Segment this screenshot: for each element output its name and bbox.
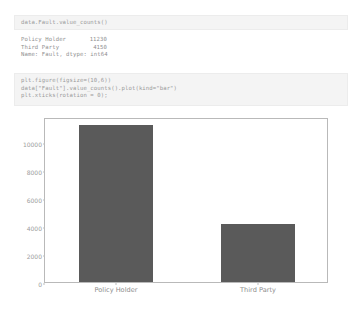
x-axis-tick-mark bbox=[116, 282, 117, 285]
y-axis-tick-label: 10000 bbox=[23, 141, 45, 148]
plot-axes-frame: 0200040006000800010000Policy HolderThird… bbox=[44, 118, 328, 283]
output-row-value: 11230 bbox=[75, 36, 107, 44]
code-cell-input-2[interactable]: plt.figure(figsize=(10,6)) data["Fault"]… bbox=[14, 73, 348, 106]
y-axis-tick-label: 0 bbox=[38, 281, 45, 288]
bar bbox=[79, 125, 153, 282]
code-line: data.Fault.value_counts() bbox=[21, 19, 342, 27]
code-line: plt.figure(figsize=(10,6)) bbox=[21, 77, 342, 85]
cell-output-text: Policy Holder11230 Third Party4150 Name:… bbox=[21, 36, 341, 59]
y-axis-tick-label: 8000 bbox=[27, 169, 45, 176]
x-axis-tick-label: Third Party bbox=[240, 286, 276, 294]
y-axis-tick-label: 2000 bbox=[27, 253, 45, 260]
cell-output-figure: 0200040006000800010000Policy HolderThird… bbox=[0, 110, 359, 314]
x-axis-tick-label: Policy Holder bbox=[95, 286, 138, 294]
output-row-label: Policy Holder bbox=[21, 36, 75, 44]
matplotlib-figure: 0200040006000800010000Policy HolderThird… bbox=[0, 110, 359, 314]
bar bbox=[221, 224, 295, 282]
output-row: Third Party4150 bbox=[21, 44, 341, 52]
notebook-document: data.Fault.value_counts() Policy Holder1… bbox=[0, 0, 359, 314]
y-axis-tick-label: 6000 bbox=[27, 197, 45, 204]
code-line: plt.xticks(rotation = 0); bbox=[21, 92, 342, 100]
code-cell-input-1[interactable]: data.Fault.value_counts() bbox=[14, 15, 348, 30]
y-axis-tick-label: 4000 bbox=[27, 225, 45, 232]
output-row-value: 4150 bbox=[75, 44, 107, 52]
output-dtype-footer: Name: Fault, dtype: int64 bbox=[21, 51, 341, 59]
output-row: Policy Holder11230 bbox=[21, 36, 341, 44]
code-line: data["Fault"].value_counts().plot(kind="… bbox=[21, 85, 342, 93]
output-row-label: Third Party bbox=[21, 44, 75, 52]
x-axis-tick-mark bbox=[258, 282, 259, 285]
